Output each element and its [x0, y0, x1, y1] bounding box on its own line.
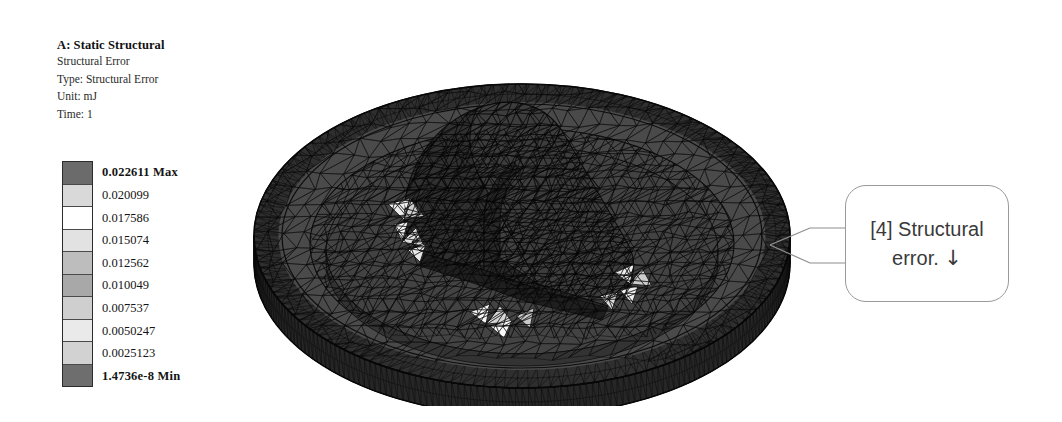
page-title: A: Static Structural	[57, 38, 267, 53]
model-viewport[interactable]	[228, 58, 816, 406]
fea-result-view: A: Static Structural Structural Error Ty…	[0, 0, 1062, 422]
annotation-tag: [4] Structural	[870, 218, 983, 240]
mesh-model-render[interactable]	[228, 58, 816, 406]
legend-label-min: 1.4736e-8 Min	[102, 368, 180, 383]
legend-label: 0.0050247	[102, 323, 155, 338]
legend-colorbar[interactable]	[62, 161, 93, 387]
legend-label: 0.020099	[102, 187, 149, 202]
legend-swatch	[63, 297, 92, 320]
legend-swatch	[63, 185, 92, 208]
legend-swatch	[63, 365, 92, 387]
annotation-text: [4] Structural error. ↓	[862, 215, 991, 273]
legend-swatch	[63, 275, 92, 298]
annotation-callout[interactable]: [4] Structural error. ↓	[845, 185, 1009, 302]
annotation-line2: error.	[892, 247, 939, 269]
legend-swatch	[63, 207, 92, 230]
legend: 0.022611 Max 0.020099 0.017586 0.015074 …	[62, 161, 252, 387]
legend-swatch	[63, 162, 92, 185]
legend-swatch	[63, 320, 92, 343]
legend-swatch	[63, 252, 92, 275]
legend-label: 0.0025123	[102, 346, 155, 361]
legend-label: 0.007537	[102, 300, 149, 315]
legend-swatch	[63, 230, 92, 253]
legend-label: 0.010049	[102, 278, 149, 293]
legend-label-max: 0.022611 Max	[102, 165, 178, 180]
legend-swatch	[63, 342, 92, 365]
legend-label: 0.015074	[102, 233, 149, 248]
down-arrow-icon: ↓	[944, 246, 962, 270]
legend-label: 0.012562	[102, 255, 149, 270]
legend-label: 0.017586	[102, 210, 149, 225]
